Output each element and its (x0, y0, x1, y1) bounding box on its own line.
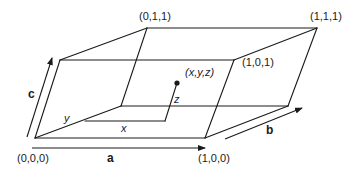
edge-100-to-110 (205, 106, 288, 138)
label-component-x: x (120, 122, 127, 134)
label-vector-b: b (266, 123, 273, 137)
label-vector-c: c (28, 87, 35, 101)
point-construction (85, 80, 180, 121)
label-101: (1,0,1) (242, 56, 274, 68)
label-origin: (0,0,0) (17, 152, 49, 164)
unit-cell-diagram: (0,0,0) (1,0,0) (0,1,1) (1,1,1) (1,0,1) … (0, 0, 359, 174)
label-point-xyz: (x,y,z) (185, 66, 214, 78)
label-vector-a: a (107, 151, 114, 165)
edge-origin-to-010 (35, 106, 121, 138)
label-100: (1,0,0) (198, 152, 230, 164)
label-component-y: y (63, 112, 71, 124)
edge-010-to-011 (121, 28, 147, 106)
edge-001-to-011 (60, 28, 147, 60)
label-component-z: z (173, 93, 180, 105)
label-111: (1,1,1) (310, 10, 342, 22)
vector-b-arrow (225, 108, 302, 139)
label-011: (0,1,1) (139, 10, 171, 22)
point-xyz-dot (174, 80, 179, 85)
lattice-vectors (27, 58, 302, 148)
edge-110-to-111 (288, 28, 317, 106)
